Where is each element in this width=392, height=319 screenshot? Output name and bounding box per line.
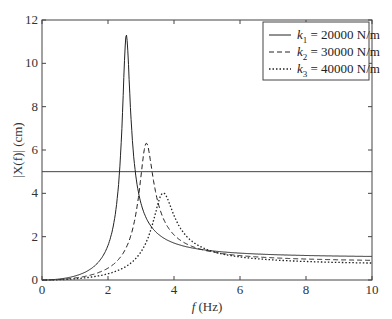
y-tick-label: 6 (32, 142, 39, 157)
y-axis-label: |X(f)| (cm) (10, 122, 25, 177)
y-tick-label: 0 (32, 272, 39, 287)
x-tick-label: 10 (366, 282, 379, 297)
y-tick-label: 8 (32, 99, 39, 114)
y-tick-label: 2 (32, 229, 39, 244)
series-line-k2 (42, 143, 372, 280)
x-tick-label: 6 (237, 282, 244, 297)
x-axis-label: f (Hz) (192, 299, 223, 314)
legend: k1 = 20000 N/mk2 = 30000 N/mk3 = 40000 N… (263, 22, 380, 80)
frequency-response-chart: 0246810024681012f (Hz)|X(f)| (cm) k1 = 2… (0, 0, 392, 319)
y-tick-label: 10 (25, 55, 38, 70)
x-tick-label: 0 (39, 282, 46, 297)
y-tick-label: 4 (32, 185, 39, 200)
series-line-k3 (42, 193, 372, 280)
x-tick-label: 2 (105, 282, 112, 297)
x-tick-label: 8 (303, 282, 310, 297)
x-tick-label: 4 (171, 282, 178, 297)
y-tick-label: 12 (25, 12, 38, 27)
